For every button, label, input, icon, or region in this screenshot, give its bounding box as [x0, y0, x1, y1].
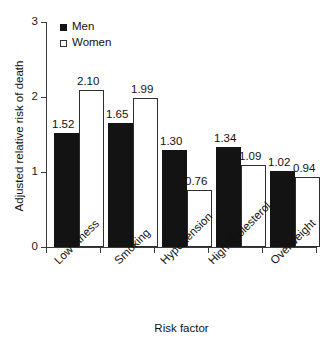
x-tick-5 [316, 248, 317, 253]
bar-value-men-smoking: 1.65 [106, 109, 128, 121]
y-axis-title: Adjusted relative risk of death [13, 41, 25, 231]
plot-area: 1.52 2.10 1.65 1.99 1.30 0.76 1.34 1.09 … [46, 22, 317, 247]
bar-value-men-overweight: 1.02 [268, 157, 290, 169]
bar-chart-figure: Men Women 3 2 1 0 1.52 2.10 1 [0, 0, 333, 345]
bar-value-women-low-fitness: 2.10 [77, 76, 99, 88]
y-tick-label-0: 0 [20, 241, 38, 253]
x-tick-2 [154, 248, 155, 253]
bar-value-women-overweight: 0.94 [293, 163, 315, 175]
bar-value-men-low-fitness: 1.52 [52, 119, 74, 131]
x-tick-4 [262, 248, 263, 253]
bar-value-women-high-cholesterol: 1.09 [239, 151, 261, 163]
y-tick-label-3: 3 [20, 16, 38, 28]
x-axis-title: Risk factor [46, 322, 317, 334]
x-tick-1 [100, 248, 101, 253]
bar-women-smoking [133, 98, 158, 247]
x-tick-3 [208, 248, 209, 253]
bar-value-women-smoking: 1.99 [131, 84, 153, 96]
bar-value-men-high-cholesterol: 1.34 [214, 133, 236, 145]
bar-men-smoking [108, 123, 133, 247]
bar-value-men-hypertension: 1.30 [160, 136, 182, 148]
x-tick-0 [46, 248, 47, 253]
bar-value-women-hypertension: 0.76 [185, 176, 207, 188]
bar-men-low-fitness [54, 133, 79, 247]
